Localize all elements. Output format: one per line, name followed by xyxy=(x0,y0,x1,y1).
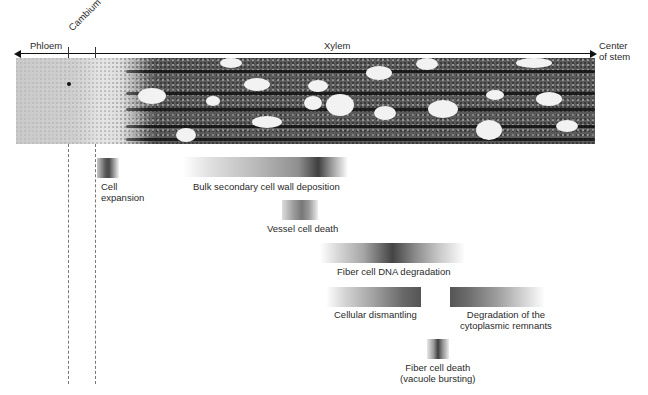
vessel-lumen xyxy=(428,100,458,118)
fiber-cell-death-bar xyxy=(427,339,449,359)
ray-band xyxy=(126,92,595,95)
bulk-secondary-cell-wall-deposition-label: Bulk secondary cell wall deposition xyxy=(193,181,340,192)
ray-band xyxy=(126,108,595,111)
fiber-cell-death-label: Fiber cell death (vacuole bursting) xyxy=(400,362,476,384)
fiber-cell-dna-degradation-label: Fiber cell DNA degradation xyxy=(337,266,451,277)
center-of-stem-label-line1: Center xyxy=(599,40,630,51)
vessel-lumen xyxy=(326,94,354,116)
cellular-dismantling-bar xyxy=(326,287,421,307)
cell-expansion-label-line2: expansion xyxy=(101,192,144,203)
cell-expansion-label-line1: Cell xyxy=(101,181,144,192)
vessel-lumen xyxy=(556,120,578,132)
vessel-lumen xyxy=(176,128,196,142)
vessel-lumen xyxy=(486,90,504,100)
degradation-label-line1: Degradation of the xyxy=(460,309,552,320)
fiber-cell-death-label-line2: (vacuole bursting) xyxy=(400,373,476,384)
vessel-lumen xyxy=(206,96,220,106)
vessel-lumen xyxy=(304,96,322,110)
cambium-left-guide xyxy=(68,144,69,384)
fiber-cell-dna-degradation-bar xyxy=(320,243,465,263)
vessel-lumen xyxy=(366,66,392,80)
degradation-of-cytoplasmic-remnants-bar xyxy=(450,287,545,307)
bulk-secondary-cell-wall-deposition-bar xyxy=(183,157,348,177)
cambium-label: Cambium xyxy=(66,0,103,33)
xylem-label: Xylem xyxy=(324,40,350,51)
center-of-stem-label-line2: of stem xyxy=(599,51,630,62)
cell-expansion-label: Cell expansion xyxy=(101,181,144,203)
degradation-label-line2: cytoplasmic remnants xyxy=(460,320,552,331)
micrograph-dot xyxy=(67,82,71,86)
center-of-stem-label: Center of stem xyxy=(599,40,630,62)
phloem-label: Phloem xyxy=(30,40,62,51)
ray-band xyxy=(126,125,595,128)
vessel-lumen xyxy=(516,58,552,68)
vessel-cell-death-bar xyxy=(282,200,318,220)
cell-expansion-bar xyxy=(97,158,119,178)
cambium-right-guide xyxy=(95,144,96,384)
ray-band xyxy=(126,70,595,73)
vessel-lumen xyxy=(416,58,438,70)
radial-axis-line xyxy=(18,53,590,54)
fiber-cell-death-label-line1: Fiber cell death xyxy=(400,362,476,373)
vessel-lumen xyxy=(220,58,242,68)
vessel-lumen xyxy=(476,120,502,140)
ray-band xyxy=(126,138,595,141)
vessel-cell-death-label: Vessel cell death xyxy=(267,223,338,234)
arrow-right-icon xyxy=(590,50,597,58)
phloem-cambium-region xyxy=(16,58,146,144)
vessel-lumen xyxy=(308,80,328,92)
degradation-of-cytoplasmic-remnants-label: Degradation of the cytoplasmic remnants xyxy=(460,309,552,331)
vessel-lumen xyxy=(252,116,282,128)
wood-micrograph xyxy=(16,58,595,144)
cellular-dismantling-label: Cellular dismantling xyxy=(334,309,417,320)
vessel-lumen xyxy=(536,92,562,106)
vessel-lumen xyxy=(374,106,396,120)
vessel-lumen xyxy=(244,78,270,91)
